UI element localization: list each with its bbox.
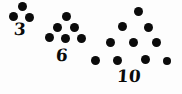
dot [152,38,161,47]
dot [129,38,138,47]
dot [118,22,127,31]
dot [91,56,100,65]
dot-group-10: 10 [0,0,182,94]
dot [163,57,171,65]
dot [134,7,143,16]
dot [144,23,153,32]
dot [141,55,150,64]
dot [106,38,115,47]
dot [113,56,122,65]
triangular-number-dot-diagram: 3610 [0,0,182,94]
group-count-label-10: 10 [116,68,141,85]
